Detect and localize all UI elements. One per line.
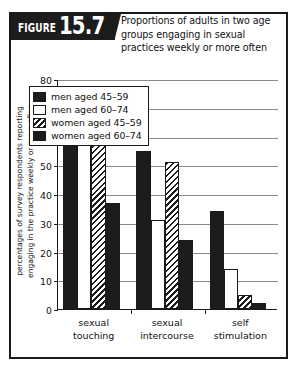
bar	[238, 295, 252, 309]
figure-number-text: 15.7	[59, 14, 104, 40]
chart-plot-wrapper: percentages of survey respondents report…	[11, 62, 290, 361]
bar	[77, 131, 91, 309]
legend-swatch-icon	[33, 131, 46, 141]
y-tick-label: 20	[40, 247, 52, 258]
figure-badge-word: FIGURE	[18, 20, 56, 35]
y-tick-mark	[54, 253, 58, 254]
y-tick-label: 50	[40, 161, 52, 172]
bar	[151, 220, 165, 309]
legend-swatch-icon	[33, 92, 46, 102]
y-tick-label: 40	[40, 190, 52, 201]
legend-swatch-icon	[33, 118, 46, 128]
x-tick-mark	[131, 309, 132, 314]
y-tick-mark	[54, 166, 58, 167]
bar	[91, 128, 105, 309]
y-tick-mark	[54, 281, 58, 282]
legend-label: men aged 45–59	[51, 91, 128, 102]
y-tick-label: 80	[40, 75, 52, 86]
figure-header: FIGURE 15.7 Proportions of adults in two…	[11, 14, 290, 62]
y-tick-label: 0	[46, 305, 52, 316]
legend-item: men aged 45–59	[33, 90, 142, 103]
legend-item: men aged 60–74	[33, 103, 142, 116]
y-tick-mark	[54, 195, 58, 196]
bar	[252, 303, 266, 309]
bar	[210, 211, 224, 309]
legend-label: women aged 60–74	[51, 130, 142, 141]
x-tick-mark	[205, 309, 206, 314]
bar	[179, 240, 193, 309]
figure-caption: Proportions of adults in two age groups …	[121, 14, 286, 55]
legend-label: men aged 60–74	[51, 104, 128, 115]
y-tick-mark	[54, 80, 58, 81]
bar	[136, 151, 150, 309]
gridline	[58, 80, 278, 81]
bar	[224, 269, 238, 309]
bar	[106, 203, 120, 309]
figure-number-badge: FIGURE 15.7	[11, 14, 115, 40]
x-axis-category-label: sexual intercourse	[130, 316, 203, 342]
legend-item: women aged 60–74	[33, 129, 142, 142]
bar	[165, 162, 179, 309]
x-axis-category-label: self stimulation	[204, 316, 277, 342]
y-tick-mark	[54, 224, 58, 225]
legend-label: women aged 45–59	[51, 117, 142, 128]
legend-swatch-icon	[33, 105, 46, 115]
legend-item: women aged 45–59	[33, 116, 142, 129]
chart-legend: men aged 45–59men aged 60–74women aged 4…	[29, 86, 149, 146]
y-tick-label: 30	[40, 218, 52, 229]
figure-card: FIGURE 15.7 Proportions of adults in two…	[9, 12, 288, 359]
x-axis-category-label: sexual touching	[57, 316, 130, 342]
y-tick-label: 10	[40, 276, 52, 287]
y-tick-mark	[54, 310, 58, 311]
